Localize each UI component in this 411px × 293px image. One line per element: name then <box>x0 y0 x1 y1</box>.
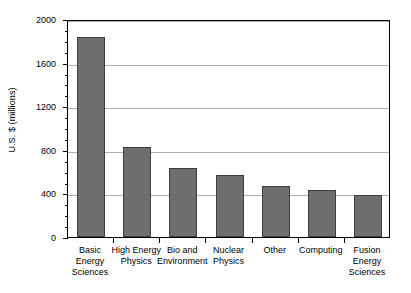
bars-group <box>68 21 389 237</box>
x-axis-tick <box>159 238 160 243</box>
x-axis-tick-marks <box>67 238 390 244</box>
y-axis-tick-label: 400 <box>22 190 56 199</box>
y-axis-title: U.S. $ (millions) <box>0 0 24 240</box>
y-axis-tick-label: 2000 <box>22 16 56 25</box>
y-axis-title-label: U.S. $ (millions) <box>7 87 17 152</box>
y-axis-tick-label: 0 <box>22 234 56 243</box>
x-axis-category-labels: Basic Energy SciencesHigh Energy Physics… <box>67 245 390 291</box>
y-axis-tick-label: 800 <box>22 146 56 155</box>
x-axis-tick <box>205 238 206 243</box>
bar <box>308 190 336 237</box>
y-axis-tick-label: 1600 <box>22 59 56 68</box>
x-axis-tick <box>252 238 253 243</box>
bar <box>216 175 244 237</box>
bar <box>123 147 151 237</box>
bar <box>169 168 197 237</box>
x-axis-tick <box>298 238 299 243</box>
bar <box>262 186 290 237</box>
y-axis-tick-label: 1200 <box>22 103 56 112</box>
x-axis-tick <box>344 238 345 243</box>
bar-chart: U.S. $ (millions) 0400800120016002000 Ba… <box>0 0 411 293</box>
y-axis-tick-labels: 0400800120016002000 <box>22 20 56 238</box>
x-axis-tick <box>113 238 114 243</box>
bar <box>354 195 382 237</box>
plot-area <box>67 20 390 238</box>
bar <box>77 37 105 237</box>
x-axis-category-label: Fusion Energy Sciences <box>338 245 396 278</box>
